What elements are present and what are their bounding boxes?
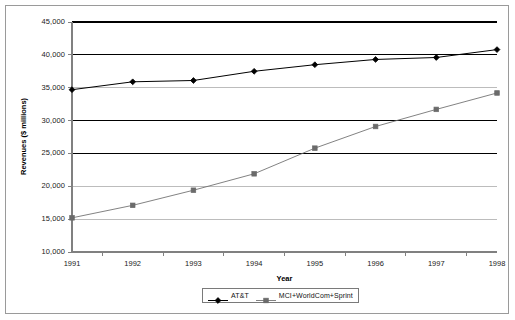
y-tick-label: 30,000: [21, 116, 65, 125]
legend-label: AT&T: [231, 292, 249, 299]
x-tick-label: 1998: [474, 259, 515, 268]
y-tick-label: 15,000: [21, 214, 65, 223]
legend-label: MCI+WorldCom+Sprint: [279, 292, 353, 299]
y-tick-label: 25,000: [21, 148, 65, 157]
y-tick-label: 10,000: [21, 247, 65, 256]
y-tick-label: 35,000: [21, 83, 65, 92]
x-axis-label: Year: [245, 274, 325, 283]
y-tick-label: 40,000: [21, 50, 65, 59]
legend-swatch-icon: [208, 291, 228, 300]
chart-svg: [0, 0, 515, 320]
x-tick-label: 1991: [49, 259, 95, 268]
x-tick-label: 1993: [170, 259, 216, 268]
x-tick-label: 1994: [231, 259, 277, 268]
chart-figure: Revenues ($ millions) Year 10,00015,0002…: [0, 0, 515, 320]
chart-legend: AT&TMCI+WorldCom+Sprint: [202, 288, 359, 303]
y-tick-label: 20,000: [21, 181, 65, 190]
x-tick-label: 1997: [413, 259, 459, 268]
x-tick-label: 1992: [110, 259, 156, 268]
x-tick-label: 1996: [353, 259, 399, 268]
x-tick-label: 1995: [292, 259, 338, 268]
chart-plot-area: [0, 0, 515, 320]
legend-entry: AT&T: [208, 289, 249, 302]
legend-entry: MCI+WorldCom+Sprint: [256, 289, 353, 302]
legend-swatch-icon: [256, 291, 276, 300]
y-tick-label: 45,000: [21, 17, 65, 26]
y-axis-label: Revenues ($ millions): [19, 98, 28, 175]
